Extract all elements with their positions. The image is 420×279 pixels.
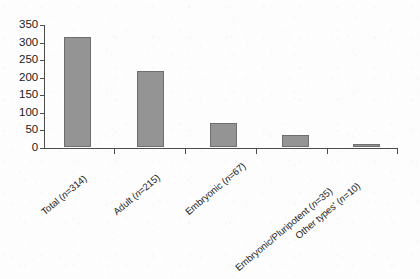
x-axis-line	[44, 148, 398, 149]
bar-embryonic[interactable]	[210, 123, 237, 147]
y-tick-label: 200	[19, 71, 38, 83]
bar-chart-figure: 0 50 100 150 200 250 300 350	[0, 0, 420, 279]
plot-area: 0 50 100 150 200 250 300 350	[44, 25, 398, 148]
bar-other-types[interactable]	[353, 144, 380, 148]
y-tick-mark	[40, 43, 45, 44]
bar-embryonic-pluripotent[interactable]	[282, 135, 309, 147]
y-tick-mark	[40, 148, 45, 149]
x-axis-label-embryonic-pluripotent[interactable]: Embryonic/Pluripotent (n=35)	[233, 185, 334, 273]
x-axis-label-embryonic[interactable]: Embryonic (n=67)	[183, 160, 248, 217]
y-tick-mark	[40, 95, 45, 96]
y-tick-label: 350	[19, 18, 38, 30]
x-axis-label-total[interactable]: Total (n=314)	[39, 173, 89, 217]
x-tick-mark	[114, 149, 115, 154]
y-tick-label: 100	[19, 106, 38, 118]
y-tick-mark	[40, 78, 45, 79]
x-tick-mark	[327, 149, 328, 154]
y-tick-label: 50	[25, 123, 38, 135]
y-tick-label: 300	[19, 36, 38, 48]
x-tick-mark	[256, 149, 257, 154]
y-tick-label: 150	[19, 88, 38, 100]
y-tick-mark	[40, 113, 45, 114]
x-axis-label-adult[interactable]: Adult (n=215)	[111, 172, 162, 217]
y-tick-label: 0	[32, 141, 38, 153]
x-tick-mark	[397, 149, 398, 154]
y-tick-mark	[40, 25, 45, 26]
y-tick-mark	[40, 130, 45, 131]
bar-adult[interactable]	[137, 71, 164, 147]
y-tick-mark	[40, 60, 45, 61]
bar-total[interactable]	[64, 37, 91, 147]
y-tick-label: 250	[19, 53, 38, 65]
x-tick-mark	[185, 149, 186, 154]
